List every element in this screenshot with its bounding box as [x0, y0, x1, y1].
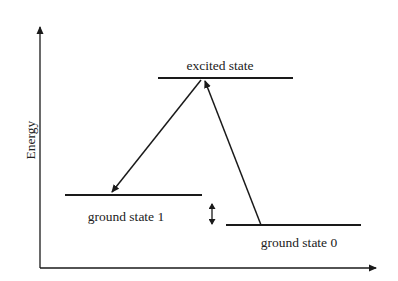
energy-diagram: Energy excited state ground state 1 grou… [0, 0, 398, 281]
excited-state-label: excited state [186, 58, 253, 73]
ground-state-1-label: ground state 1 [88, 209, 165, 224]
y-axis-label: Energy [23, 120, 38, 159]
ground-state-0-label: ground state 0 [261, 235, 338, 250]
absorption-arrow [205, 81, 261, 225]
emission-arrow [112, 80, 201, 192]
